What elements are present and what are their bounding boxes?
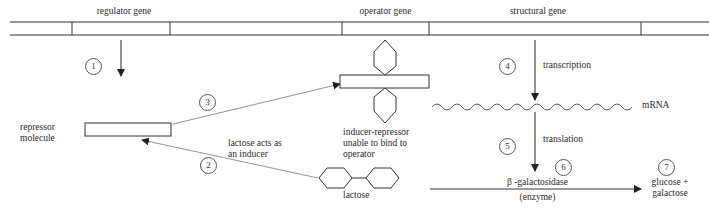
enzyme-type-label: (enzyme): [490, 192, 585, 203]
enzyme-name-label: β -galactosidase: [490, 177, 585, 188]
step-1-badge: 1: [85, 58, 102, 75]
translation-label: translation: [543, 134, 583, 145]
dna-strip: [10, 22, 709, 35]
arrow-3: [173, 84, 340, 124]
repressor-molecule-shape: [85, 123, 171, 136]
lactose-inducer-label: lactose acts as an inducer: [228, 138, 282, 160]
lac-operon-diagram: regulator gene operator gene structural …: [0, 0, 709, 212]
step-5-badge: 5: [499, 138, 516, 155]
step-7-badge: 7: [658, 159, 675, 176]
structural-gene-label: structural gene: [468, 6, 608, 17]
repressor-molecule-label: repressor molecule: [20, 122, 55, 144]
lactose-label: lactose: [343, 190, 369, 201]
transcription-label: transcription: [543, 60, 591, 71]
lactose-molecule: [319, 168, 399, 188]
operator-gene-label: operator gene: [342, 6, 429, 17]
step-3-badge: 3: [199, 94, 216, 111]
diagram-graphics: [0, 0, 709, 212]
regulator-gene-label: regulator gene: [80, 6, 168, 17]
products-label: glucose + galactose: [642, 177, 698, 199]
step-6-badge: 6: [555, 159, 572, 176]
inducer-repressor-complex: [340, 40, 429, 123]
mrna-label: mRNA: [642, 100, 669, 111]
mrna-wave: [432, 104, 632, 110]
inducer-repressor-label: inducer-repressor unable to bind to oper…: [343, 127, 409, 160]
step-4-badge: 4: [499, 58, 516, 75]
step-2-badge: 2: [200, 157, 217, 174]
